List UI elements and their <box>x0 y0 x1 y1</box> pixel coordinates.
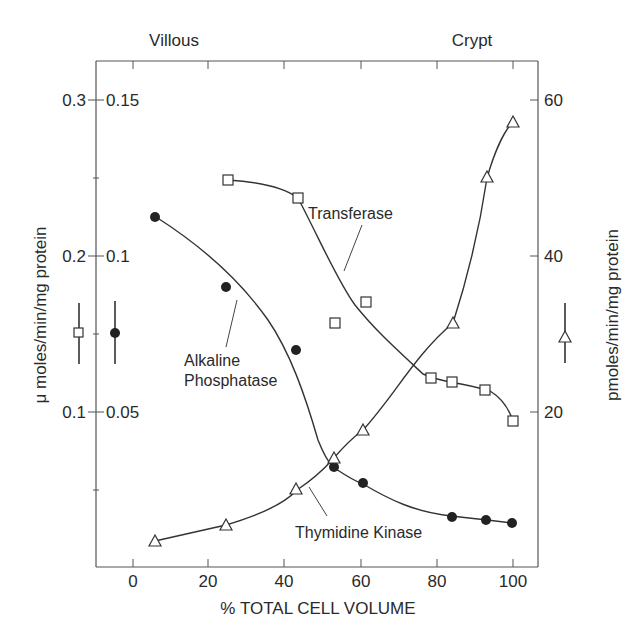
transferase-reference-marker <box>74 328 83 337</box>
thymidine-kinase-reference-marker <box>559 331 571 342</box>
transferase-label: Transferase <box>308 205 393 222</box>
right-tick-20: 20 <box>544 403 563 422</box>
right-axis-title: pmoles/min/mg protein <box>603 229 622 401</box>
plot-frame <box>96 61 538 567</box>
x-tick-100: 100 <box>499 572 527 591</box>
left-outer-tick-0.1: 0.1 <box>62 403 86 422</box>
top-ticks <box>133 61 513 69</box>
alkaline-phosphatase-markers <box>150 212 517 528</box>
thymidine-kinase-markers <box>149 116 519 546</box>
x-axis-title: % TOTAL CELL VOLUME <box>220 599 415 618</box>
x-tick-40: 40 <box>275 572 294 591</box>
x-tick-20: 20 <box>199 572 218 591</box>
alkaline-phosphatase-reference-marker <box>110 328 120 338</box>
right-tick-40: 40 <box>544 247 563 266</box>
left-outer-tick-0.2: 0.2 <box>62 247 86 266</box>
crypt-label: Crypt <box>452 31 493 50</box>
chart: 0.3 0.2 0.1 0.15 0.1 0.05 60 40 20 0 20 … <box>0 0 636 634</box>
right-tick-60: 60 <box>544 91 563 110</box>
x-tick-80: 80 <box>428 572 447 591</box>
x-axis-ticks <box>133 559 513 567</box>
villous-label: Villous <box>149 31 199 50</box>
alkaline-phosphatase-label-line2: Phosphatase <box>184 372 278 389</box>
right-axis-ticks <box>530 100 538 412</box>
alkaline-phosphatase-curve <box>156 217 512 523</box>
left-inner-tick-0.15: 0.15 <box>106 91 139 110</box>
left-inner-tick-0.1: 0.1 <box>106 247 130 266</box>
x-tick-0: 0 <box>128 572 137 591</box>
x-tick-60: 60 <box>352 572 371 591</box>
left-axis-title: μ moles/min/mg protein <box>31 226 50 403</box>
reference-bars <box>79 301 565 364</box>
thymidine-kinase-label: Thymidine Kinase <box>295 524 422 541</box>
left-inner-tick-0.05: 0.05 <box>106 403 139 422</box>
thymidine-kinase-curve <box>155 122 513 541</box>
left-outer-tick-0.3: 0.3 <box>62 91 86 110</box>
alkaline-phosphatase-label-line1: Alkaline <box>184 352 240 369</box>
